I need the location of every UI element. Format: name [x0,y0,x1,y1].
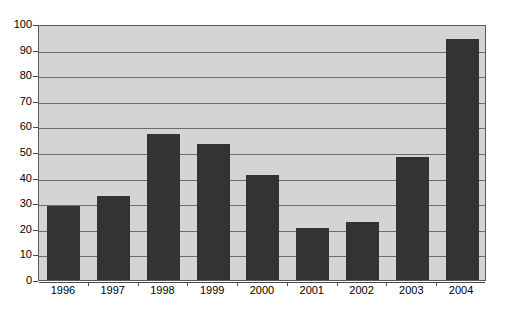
x-tick-label-1998: 1998 [138,285,188,296]
bar-1998[interactable] [147,134,180,280]
bar-1997[interactable] [97,196,130,280]
x-tick-label-2003: 2003 [386,285,436,296]
bar-slot-1996 [39,26,89,280]
x-tick-label-1996: 1996 [38,285,88,296]
bar-1996[interactable] [47,206,80,280]
bar-2001[interactable] [296,228,329,280]
y-axis-tick-marks [0,25,38,281]
x-tick-label-2000: 2000 [237,285,287,296]
bar-2002[interactable] [346,222,379,280]
x-axis-tick-labels: 199619971998199920002001200220032004 [38,285,486,305]
bar-2004[interactable] [446,39,479,280]
bar-slot-1999 [188,26,238,280]
x-tick-label-2004: 2004 [436,285,486,296]
bars-group [39,26,485,280]
bar-slot-2002 [338,26,388,280]
x-tick-label-1997: 1997 [88,285,138,296]
plot-area [38,25,486,281]
bar-slot-2001 [288,26,338,280]
bar-2003[interactable] [396,157,429,280]
bar-slot-2004 [437,26,487,280]
bar-2000[interactable] [246,175,279,280]
bar-1999[interactable] [197,144,230,280]
bar-slot-1998 [139,26,189,280]
x-tick-label-2002: 2002 [337,285,387,296]
x-tick-label-2001: 2001 [287,285,337,296]
bar-chart: 0102030405060708090100 19961997199819992… [0,0,506,319]
bar-slot-1997 [89,26,139,280]
x-tick-label-1999: 1999 [187,285,237,296]
bar-slot-2003 [387,26,437,280]
bar-slot-2000 [238,26,288,280]
